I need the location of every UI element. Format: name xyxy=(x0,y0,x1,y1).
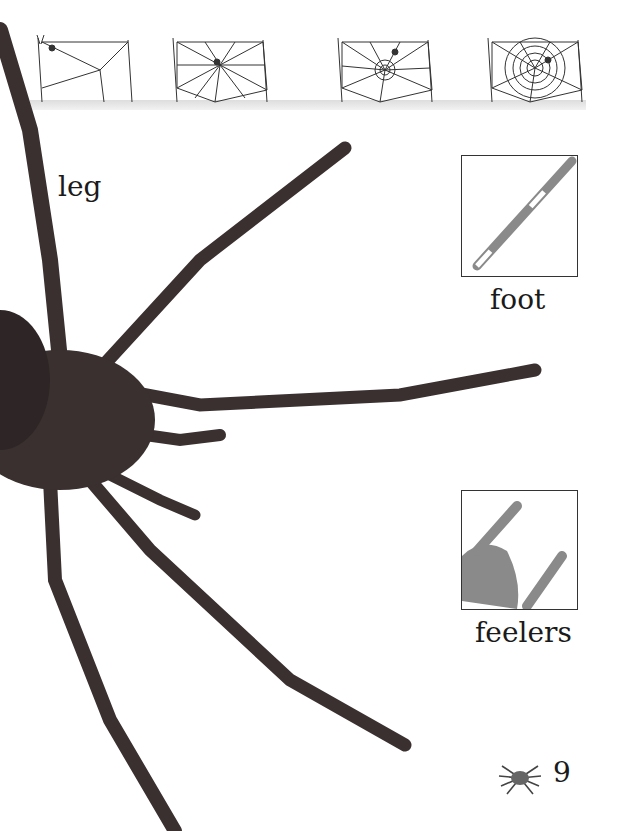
feelers-label: feelers xyxy=(475,616,572,649)
leg-label: leg xyxy=(58,170,101,203)
foot-inset xyxy=(461,155,578,277)
page-number: 9 xyxy=(553,756,571,789)
foot-label: foot xyxy=(490,283,545,316)
spider-photo xyxy=(0,0,619,831)
foot-drawing xyxy=(462,156,577,276)
spider-icon xyxy=(497,758,543,798)
feelers-drawing xyxy=(462,491,577,609)
feelers-inset xyxy=(461,490,578,610)
